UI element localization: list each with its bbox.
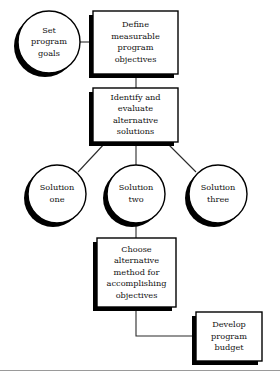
label-line: Set (42, 25, 56, 35)
label-line: Choose (121, 244, 152, 254)
connector-identify-to-solution-one (78, 142, 106, 172)
label-line: alternative (114, 255, 159, 265)
label-line: method for (114, 267, 160, 277)
label-line: budget (214, 342, 244, 352)
label-line: one (49, 194, 64, 204)
label-line: two (128, 194, 143, 204)
label-line: Identify and (110, 92, 160, 102)
label-line: objectives (115, 54, 157, 64)
label-line: measurable (111, 31, 160, 41)
label-identify-evaluate: Identify andevaluatealternativesolutions (110, 92, 160, 137)
label-line: evaluate (118, 103, 153, 113)
flowchart-page: SetprogramgoalsDefinemeasurableprogramob… (0, 0, 280, 380)
label-line: program (118, 42, 154, 52)
flowchart-canvas: SetprogramgoalsDefinemeasurableprogramob… (0, 0, 280, 380)
label-line: three (207, 194, 229, 204)
connector-choose-to-budget (136, 307, 196, 336)
label-line: objectives (116, 290, 158, 300)
label-line: Solution (119, 182, 154, 192)
label-line: goals (38, 48, 60, 58)
label-line: solutions (117, 126, 154, 136)
label-develop-budget: Developprogrambudget (211, 319, 247, 352)
label-line: program (31, 36, 67, 46)
label-line: accomplishing (107, 278, 167, 288)
connector-identify-to-solution-three (166, 142, 196, 172)
label-line: Solution (40, 182, 75, 192)
label-line: program (211, 331, 247, 341)
label-line: Develop (212, 319, 246, 329)
label-line: Define (122, 19, 149, 29)
label-line: Solution (201, 182, 236, 192)
label-line: alternative (113, 115, 158, 125)
